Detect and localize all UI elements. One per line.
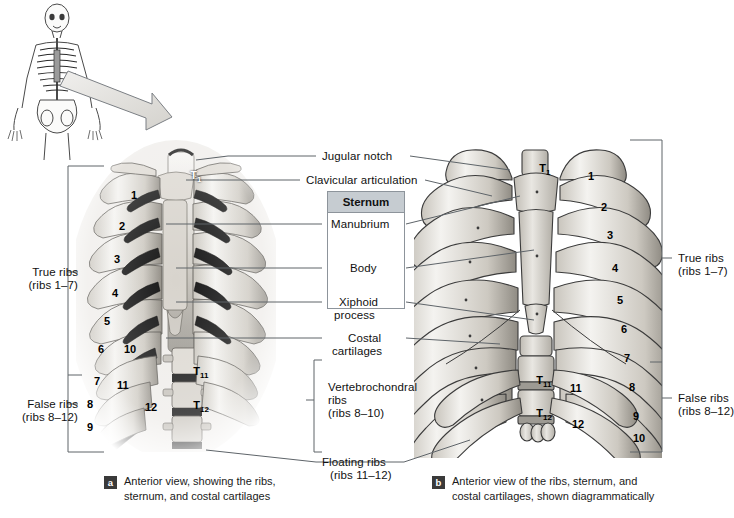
label-left-false-ribs-line2: (ribs 8–12)	[0, 411, 78, 425]
label-xiphoid-process-line2: process	[334, 309, 375, 323]
panel-a-caption-line1: Anterior view, showing the ribs,	[124, 474, 276, 489]
panel-b-caption-line2: costal cartilages, shown diagrammaticall…	[452, 489, 654, 504]
panel-b-rib-number: 6	[621, 323, 627, 335]
label-right-true-ribs-line1: True ribs	[678, 252, 724, 266]
panel-a-rib-number: 11	[117, 379, 129, 391]
panel-b-rib-number: 5	[617, 294, 623, 306]
panel-a-rib-number: 4	[112, 287, 118, 299]
panel-a-vertebra-t1: T1	[178, 157, 201, 196]
label-costal-cartilages-line1: Costal	[348, 332, 381, 346]
panel-a-rib-number: 12	[145, 401, 157, 413]
label-clavicular-articulation: Clavicular articulation	[306, 174, 418, 188]
label-sternal-body: Body	[350, 262, 377, 276]
panel-b-caption-line1: Anterior view of the ribs, sternum, and	[452, 474, 637, 489]
panel-a-rib-number: 8	[87, 398, 93, 410]
vertebra-sub: 1	[197, 175, 201, 184]
panel-b-vertebra-t12: T12	[524, 395, 552, 434]
panel-a-rib-number: 6	[98, 343, 104, 355]
panel-b-rib-number: 4	[612, 262, 618, 274]
label-vertebrochondral-line1: Vertebrochondral	[328, 381, 417, 395]
vertebra-letter: T	[193, 365, 200, 377]
label-vertebrochondral-line2: ribs	[328, 394, 347, 408]
panel-b-rib-number: 12	[572, 418, 584, 430]
label-left-false-ribs-line1: False ribs	[0, 398, 78, 412]
vertebra-letter: T	[193, 399, 200, 411]
sternal-body-shape	[519, 210, 553, 307]
vertebra-letter: T	[536, 407, 543, 419]
panel-b-badge: b	[432, 476, 445, 489]
panel-b-rib-number: 7	[624, 352, 630, 364]
label-right-false-ribs-line1: False ribs	[678, 392, 729, 406]
label-jugular-notch: Jugular notch	[322, 150, 392, 164]
orientation-arrow	[60, 71, 172, 130]
panel-a-vertebra-t12: T12	[181, 387, 209, 426]
label-xiphoid-process-line1: Xiphoid	[339, 296, 378, 310]
vertebra-letter: T	[539, 162, 546, 174]
label-right-false-ribs-line2: (ribs 8–12)	[678, 405, 734, 419]
panel-a-rib-number: 1	[131, 189, 137, 201]
label-floating-ribs-line2: (ribs 11–12)	[330, 469, 392, 483]
panel-a-rib-number: 5	[104, 315, 110, 327]
panel-b-rib-number: 1	[588, 170, 594, 182]
label-vertebrochondral-line3: (ribs 8–10)	[328, 407, 384, 421]
panel-b-rib-number: 3	[607, 229, 613, 241]
vertebra-sub: 11	[200, 371, 208, 380]
vertebrochondral-bracket	[306, 360, 322, 452]
panel-b-rib-number: 8	[629, 381, 635, 393]
label-left-true-ribs-line2: (ribs 1–7)	[0, 279, 78, 293]
panel-a-rib-number: 9	[87, 421, 93, 433]
label-floating-ribs-line1: Floating ribs	[322, 456, 386, 470]
panel-a-rib-number: 10	[124, 343, 136, 355]
panel-a-photo-artwork	[68, 140, 284, 460]
vertebra-sub: 12	[200, 405, 209, 414]
panel-b-vertebra-t1: T1	[527, 150, 550, 189]
vertebra-letter: T	[190, 169, 197, 181]
vertebra-sub: 11	[543, 380, 551, 389]
label-manubrium: Manubrium	[331, 218, 389, 232]
panel-a-caption-line2: sternum, and costal cartilages	[124, 489, 270, 504]
label-costal-cartilages-line2: cartilages	[332, 345, 382, 359]
panel-a-rib-number: 3	[114, 253, 120, 265]
panel-b-rib-number: 2	[601, 201, 607, 213]
vertebra-letter: T	[536, 374, 543, 386]
vertebra-sub: 1	[546, 168, 550, 177]
vertebra-sub: 12	[543, 413, 552, 422]
sternum-box-header: Sternum	[327, 191, 405, 213]
label-right-true-ribs-line2: (ribs 1–7)	[678, 265, 728, 279]
label-left-true-ribs-line1: True ribs	[0, 266, 78, 280]
panel-b-rib-number: 10	[633, 432, 645, 444]
panel-b-rib-number: 11	[570, 382, 582, 394]
panel-a-rib-number: 2	[119, 220, 125, 232]
panel-b-rib-number: 9	[633, 410, 639, 422]
panel-a-rib-number: 7	[94, 375, 100, 387]
panel-a-badge: a	[104, 476, 117, 489]
